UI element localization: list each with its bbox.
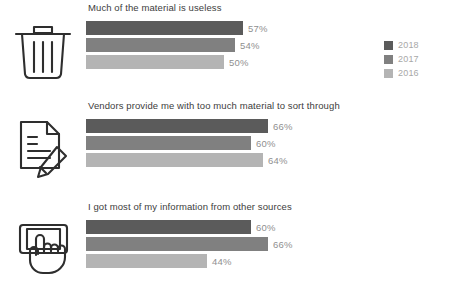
- legend-label: 2016: [398, 69, 419, 78]
- document-pencil-icon: [10, 114, 76, 182]
- group-title: Much of the material is useless: [88, 2, 380, 14]
- legend-item-2017: 2017: [384, 55, 419, 64]
- trash-can-icon: [10, 16, 76, 84]
- bar-2018: [86, 220, 251, 234]
- bar-value-label: 66%: [273, 121, 293, 132]
- chart-group-body: I got most of my information from other …: [86, 201, 380, 268]
- legend-label: 2017: [398, 55, 419, 64]
- legend-swatch-2017: [384, 55, 393, 64]
- legend-swatch-2016: [384, 69, 393, 78]
- legend-swatch-2018: [384, 41, 393, 50]
- chart-group-body: Vendors provide me with too much materia…: [86, 100, 380, 167]
- bar-row: 66%: [86, 237, 380, 251]
- bar-value-label: 64%: [268, 155, 288, 166]
- bar-row: 60%: [86, 136, 380, 150]
- bar-value-label: 60%: [256, 138, 276, 149]
- group-title: I got most of my information from other …: [88, 201, 380, 213]
- bar-row: 54%: [86, 38, 380, 52]
- chart-group-body: Much of the material is useless 57% 54% …: [86, 2, 380, 69]
- legend: 2018 2017 2016: [384, 41, 419, 78]
- bar-value-label: 54%: [240, 40, 260, 51]
- bar-2017: [86, 136, 251, 150]
- bar-row: 64%: [86, 153, 380, 167]
- bar-row: 66%: [86, 119, 380, 133]
- bar-2016: [86, 153, 263, 167]
- bar-value-label: 60%: [256, 222, 276, 233]
- legend-label: 2018: [398, 41, 419, 50]
- bar-value-label: 50%: [229, 57, 249, 68]
- bar-list: 66% 60% 64%: [86, 119, 380, 167]
- chart-group-2: Vendors provide me with too much materia…: [0, 100, 380, 186]
- bar-2018: [86, 21, 243, 35]
- bar-value-label: 66%: [273, 239, 293, 250]
- legend-item-2018: 2018: [384, 41, 419, 50]
- bar-2016: [86, 254, 207, 268]
- bar-row: 57%: [86, 21, 380, 35]
- bar-2016: [86, 55, 224, 69]
- bar-row: 60%: [86, 220, 380, 234]
- group-title: Vendors provide me with too much materia…: [88, 100, 380, 112]
- chart-group-3: I got most of my information from other …: [0, 201, 380, 287]
- legend-item-2016: 2016: [384, 69, 419, 78]
- infographic-bar-chart: Much of the material is useless 57% 54% …: [0, 0, 454, 291]
- bar-2018: [86, 119, 268, 133]
- bar-2017: [86, 237, 268, 251]
- bar-row: 44%: [86, 254, 380, 268]
- chart-group-1: Much of the material is useless 57% 54% …: [0, 2, 380, 88]
- bar-value-label: 57%: [248, 23, 268, 34]
- bar-list: 60% 66% 44%: [86, 220, 380, 268]
- bar-row: 50%: [86, 55, 380, 69]
- bar-list: 57% 54% 50%: [86, 21, 380, 69]
- hand-tablet-icon: [10, 215, 76, 283]
- bar-2017: [86, 38, 235, 52]
- bar-value-label: 44%: [212, 256, 232, 267]
